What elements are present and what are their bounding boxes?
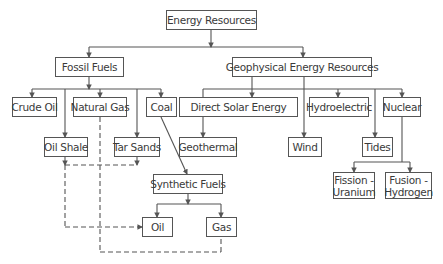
node-label: Natural Gas bbox=[71, 101, 130, 113]
node-label-line1: Fusion - bbox=[389, 174, 427, 186]
node-label: Oil Shale bbox=[44, 141, 88, 153]
node-wind: Wind bbox=[288, 137, 322, 157]
node-label: Synthetic Fuels bbox=[150, 178, 225, 190]
node-label: Oil bbox=[151, 221, 164, 233]
node-label: Geophysical Energy Resources bbox=[226, 61, 379, 73]
node-oil: Oil bbox=[142, 217, 173, 237]
node-label: Energy Resources bbox=[167, 14, 256, 26]
node-nuclear: Nuclear bbox=[383, 97, 421, 117]
node-fusion-hydrogen: Fusion - Hydrogen bbox=[385, 172, 432, 199]
node-label-line2: Uranium bbox=[333, 186, 376, 198]
node-gas: Gas bbox=[206, 217, 237, 237]
node-label: Crude Oil bbox=[11, 101, 57, 113]
node-geophysical-energy-resources: Geophysical Energy Resources bbox=[232, 57, 372, 77]
node-label: Coal bbox=[151, 101, 173, 113]
node-label: Nuclear bbox=[383, 101, 421, 113]
node-geothermal: Geothermal bbox=[179, 137, 237, 157]
node-label: Geothermal bbox=[179, 141, 238, 153]
node-label: Tides bbox=[364, 141, 390, 153]
node-fossil-fuels: Fossil Fuels bbox=[55, 57, 124, 77]
node-label: Wind bbox=[292, 141, 317, 153]
node-oil-shale: Oil Shale bbox=[44, 137, 88, 157]
node-synthetic-fuels: Synthetic Fuels bbox=[153, 174, 223, 194]
node-label-line2: Hydrogen bbox=[384, 186, 433, 198]
node-label-line1: Fission - bbox=[334, 174, 374, 186]
node-tides: Tides bbox=[362, 137, 393, 157]
node-coal: Coal bbox=[146, 97, 177, 117]
node-tar-sands: Tar Sands bbox=[114, 137, 160, 157]
node-direct-solar-energy: Direct Solar Energy bbox=[179, 97, 298, 117]
node-natural-gas: Natural Gas bbox=[73, 97, 127, 117]
node-hydroelectric: Hydroelectric bbox=[309, 97, 369, 117]
node-label: Tar Sands bbox=[113, 141, 161, 153]
node-label: Fossil Fuels bbox=[62, 61, 118, 73]
node-fission-uranium: Fission - Uranium bbox=[333, 172, 375, 199]
node-label: Direct Solar Energy bbox=[191, 101, 287, 113]
node-energy-resources: Energy Resources bbox=[166, 10, 257, 30]
node-crude-oil: Crude Oil bbox=[12, 97, 57, 117]
node-label: Hydroelectric bbox=[306, 101, 372, 113]
node-label: Gas bbox=[212, 221, 231, 233]
